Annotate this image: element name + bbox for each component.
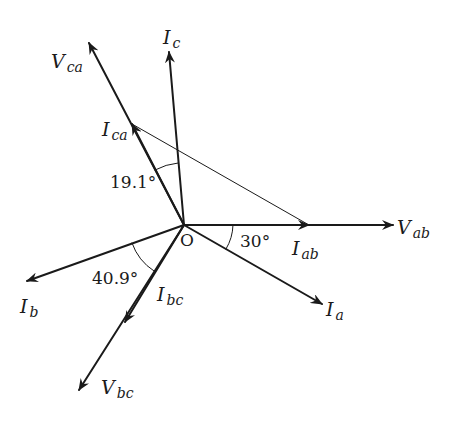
angle-arc-40 (132, 243, 154, 271)
label-ic-symbol: I (163, 26, 171, 48)
origin-label: O (180, 232, 194, 249)
label-vab-subscript: ab (413, 225, 430, 241)
label-iab-symbol: I (292, 237, 300, 259)
label-vab-symbol: V (397, 216, 411, 238)
label-vca: Vca (51, 52, 83, 71)
label-ia-symbol: I (326, 298, 334, 320)
label-vbc-subscript: bc (117, 385, 134, 401)
phasor-diagram: Vca Ic Ica 19.1° O 30° Iab Vab Ia 40.9° … (0, 0, 449, 422)
label-ibc: Ibc (157, 285, 183, 304)
label-iab: Iab (292, 239, 319, 258)
angle-arc-19 (155, 163, 178, 170)
label-ica: Ica (102, 120, 128, 139)
angle-arc-30 (226, 225, 233, 249)
label-vab: Vab (397, 218, 430, 237)
label-ib: Ib (20, 297, 38, 316)
label-ic: Ic (163, 28, 180, 47)
label-vbc: Vbc (101, 378, 134, 397)
label-vbc-symbol: V (101, 376, 115, 398)
label-ibc-symbol: I (157, 283, 165, 305)
label-ica-symbol: I (102, 118, 110, 140)
label-ib-subscript: b (30, 304, 39, 320)
label-ia: Ia (326, 300, 344, 319)
label-ica-subscript: ca (112, 127, 128, 143)
angle-label-40: 40.9° (92, 270, 138, 287)
label-ib-symbol: I (20, 295, 28, 317)
angle-label-19: 19.1° (110, 174, 156, 191)
label-ibc-subscript: bc (167, 292, 184, 308)
label-iab-subscript: ab (302, 246, 319, 262)
angle-label-30: 30° (240, 233, 270, 250)
label-ic-subscript: c (173, 35, 181, 51)
label-ia-subscript: a (336, 307, 344, 323)
label-vca-subscript: ca (67, 59, 83, 75)
label-vca-symbol: V (51, 50, 65, 72)
